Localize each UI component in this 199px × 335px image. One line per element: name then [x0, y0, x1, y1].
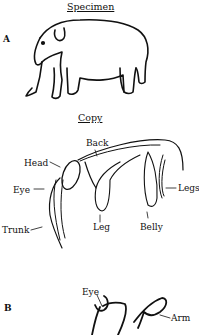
- label-back: Back: [86, 138, 108, 148]
- label-eye: Eye: [13, 185, 30, 195]
- label-head: Head: [24, 158, 48, 168]
- label-belly: Belly: [140, 222, 163, 232]
- label-leg: Leg: [93, 222, 110, 232]
- label-b-eye: Eye: [82, 287, 99, 297]
- panel-b-letter: B: [4, 303, 12, 313]
- label-legs: Legs: [178, 183, 199, 193]
- label-b-arm: Arm: [171, 313, 190, 323]
- label-trunk: Trunk: [2, 225, 29, 235]
- copy-title: Copy: [78, 112, 102, 123]
